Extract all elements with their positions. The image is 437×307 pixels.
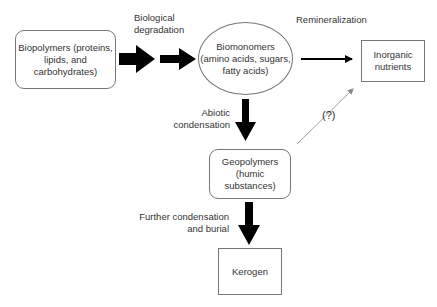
biological-degradation-label: Biological degradation: [134, 12, 184, 36]
kerogen-label: Kerogen: [232, 266, 268, 278]
further-condensation-line2: and burial: [139, 223, 229, 235]
inorganic-label-2: nutrients: [373, 61, 412, 73]
remineralization-line1: Remineralization: [296, 14, 367, 26]
biomonomers-node: Biomonomers (amino acids, sugars, fatty …: [198, 22, 293, 95]
biopolymers-label-2: lipids, and: [18, 54, 113, 66]
remineralization-label: Remineralization: [296, 14, 367, 26]
abiotic-condensation-arrow: [235, 99, 256, 141]
uncertain-line1: (?): [322, 109, 335, 121]
biological-degradation-line2: degradation: [134, 24, 184, 36]
uncertain-label: (?): [322, 109, 335, 121]
further-condensation-line1: Further condensation: [139, 211, 229, 223]
degradation-arrow-1: [119, 45, 155, 73]
degradation-arrow-2: [160, 48, 196, 70]
abiotic-condensation-line2: condensation: [173, 119, 230, 131]
geopolymers-label-2: (humic substances): [210, 168, 290, 192]
biomonomers-label-2: (amino acids, sugars,: [200, 53, 290, 65]
biopolymers-label-1: Biopolymers (proteins,: [18, 42, 113, 54]
inorganic-nutrients-node: Inorganic nutrients: [361, 40, 425, 82]
geopolymers-node: Geopolymers (humic substances): [209, 149, 291, 199]
biomonomers-label-3: fatty acids): [200, 65, 290, 77]
biopolymers-label-3: carbohydrates): [18, 66, 113, 78]
inorganic-label-1: Inorganic: [373, 49, 412, 61]
biopolymers-node: Biopolymers (proteins, lipids, and carbo…: [15, 30, 116, 89]
further-condensation-arrow: [238, 202, 260, 245]
biomonomers-label-1: Biomonomers: [200, 41, 290, 53]
further-condensation-label: Further condensation and burial: [139, 211, 229, 235]
abiotic-condensation-line1: Abiotic: [173, 107, 230, 119]
geopolymers-label-1: Geopolymers: [210, 156, 290, 168]
abiotic-condensation-label: Abiotic condensation: [173, 107, 230, 131]
biological-degradation-line1: Biological: [134, 12, 184, 24]
kerogen-node: Kerogen: [218, 248, 282, 295]
